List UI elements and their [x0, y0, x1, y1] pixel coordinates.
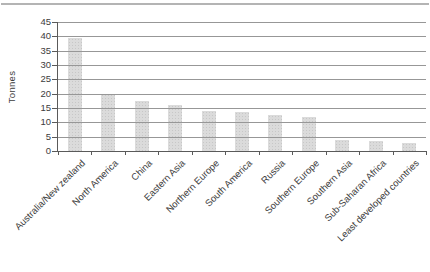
plot-area [57, 22, 426, 152]
x-tick-mark-6 [259, 151, 260, 155]
bar-slot-sub-saharan-africa [359, 22, 392, 151]
bar-southern-asia [335, 140, 349, 151]
y-tick-mark-20 [52, 94, 57, 95]
gridline-15 [58, 108, 426, 109]
bar-slot-china [125, 22, 158, 151]
y-tick-label-5: 5 [23, 132, 51, 142]
x-tick-mark-9 [359, 151, 360, 155]
y-tick-label-10: 10 [23, 117, 51, 127]
y-tick-label-0: 0 [23, 146, 51, 156]
y-tick-label-35: 35 [23, 46, 51, 56]
bar-chart: Tonnes 051015202530354045 Australia/New … [0, 0, 430, 272]
x-tick-mark-1 [91, 151, 92, 155]
x-tick-mark-5 [225, 151, 226, 155]
y-tick-label-30: 30 [23, 60, 51, 70]
y-tick-label-45: 45 [23, 17, 51, 27]
bar-slot-southern-europe [292, 22, 325, 151]
x-tick-mark-10 [393, 151, 394, 155]
y-tick-label-20: 20 [23, 89, 51, 99]
x-tick-label-australia-new-zealand: Australia/New zealand [0, 158, 87, 271]
bar-slot-russia [259, 22, 292, 151]
bar-south-america [235, 112, 249, 151]
x-tick-mark-8 [326, 151, 327, 155]
gridline-20 [58, 94, 426, 95]
y-tick-mark-45 [52, 22, 57, 23]
gridline-45 [58, 22, 426, 23]
bars-container [58, 22, 426, 151]
y-tick-mark-5 [52, 137, 57, 138]
bar-slot-least-developed-countries [393, 22, 426, 151]
x-tick-mark-4 [192, 151, 193, 155]
gridline-30 [58, 65, 426, 66]
bar-slot-northern-europe [192, 22, 225, 151]
gridline-25 [58, 79, 426, 80]
x-tick-mark-2 [125, 151, 126, 155]
y-tick-label-40: 40 [23, 31, 51, 41]
y-tick-mark-0 [52, 151, 57, 152]
y-axis-title: Tonnes [6, 71, 17, 103]
y-tick-mark-10 [52, 122, 57, 123]
y-tick-label-15: 15 [23, 103, 51, 113]
bar-russia [268, 115, 282, 151]
bar-least-developed-countries [402, 143, 416, 151]
gridline-10 [58, 122, 426, 123]
bar-eastern-asia [168, 105, 182, 151]
bar-slot-australia-new-zealand [58, 22, 91, 151]
y-tick-mark-15 [52, 108, 57, 109]
gridline-40 [58, 36, 426, 37]
chart-canvas: Tonnes 051015202530354045 Australia/New … [0, 0, 430, 272]
x-tick-mark-11 [426, 151, 427, 155]
bar-slot-eastern-asia [158, 22, 191, 151]
bar-slot-southern-asia [326, 22, 359, 151]
y-tick-mark-25 [52, 79, 57, 80]
x-tick-mark-7 [292, 151, 293, 155]
bar-northern-europe [202, 111, 216, 151]
y-tick-label-25: 25 [23, 74, 51, 84]
bar-slot-south-america [225, 22, 258, 151]
y-tick-mark-35 [52, 51, 57, 52]
y-tick-mark-40 [52, 36, 57, 37]
bar-sub-saharan-africa [369, 141, 383, 151]
y-tick-mark-30 [52, 65, 57, 66]
x-tick-mark-0 [58, 151, 59, 155]
gridline-5 [58, 137, 426, 138]
gridline-35 [58, 51, 426, 52]
x-tick-mark-3 [158, 151, 159, 155]
bar-slot-north-america [91, 22, 124, 151]
